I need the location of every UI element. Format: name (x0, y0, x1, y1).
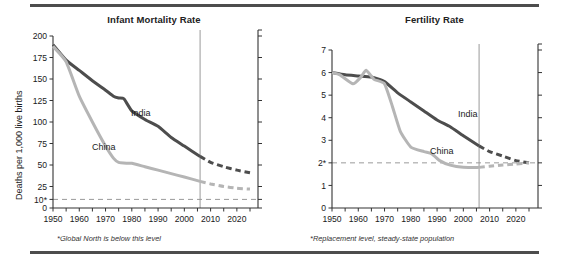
y-tick-label: 0 (321, 203, 326, 213)
y-tick-label: 75 (37, 139, 47, 149)
y-tick-label: 50 (37, 160, 47, 170)
y-tick-label: 1 (321, 181, 326, 191)
x-tick-label: 2000 (175, 214, 194, 224)
chart-svg-infant-mortality: 010*255075100125150175200195019601970198… (0, 0, 290, 266)
y-tick-label: 6 (321, 68, 326, 78)
y-tick-label: 7 (321, 45, 326, 55)
y-tick-label: 125 (33, 96, 48, 106)
y-tick-label: 3 (321, 135, 326, 145)
y-tick-label: 2* (318, 158, 327, 168)
y-tick-label: 25 (37, 182, 47, 192)
x-tick-label: 1970 (96, 214, 115, 224)
figure-container: Infant Mortality Rate Deaths per 1,000 l… (0, 0, 569, 266)
series-line-china-projection (200, 181, 250, 189)
x-tick-label: 2020 (506, 214, 525, 224)
y-tick-label: 10* (34, 195, 48, 205)
footnote-fertility: *Replacement level, steady-state populat… (310, 234, 454, 243)
series-label-india: India (131, 108, 151, 118)
panel-fertility: Fertility Rate 012*345671950196019701980… (290, 0, 569, 266)
x-tick-label: 1990 (149, 214, 168, 224)
series-label-india: India (458, 109, 478, 119)
series-line-india (53, 45, 200, 157)
x-tick-label: 1950 (43, 214, 62, 224)
x-tick-label: 1960 (70, 214, 89, 224)
x-tick-label: 2000 (454, 214, 473, 224)
chart-svg-fertility: 012*345671950196019701980199020002010202… (290, 0, 569, 266)
y-tick-label: 4 (321, 113, 326, 123)
x-tick-label: 1980 (401, 214, 420, 224)
y-tick-label: 5 (321, 90, 326, 100)
series-label-china: China (430, 146, 454, 156)
y-tick-label: 150 (33, 74, 48, 84)
x-tick-label: 1950 (322, 214, 341, 224)
x-tick-label: 2020 (227, 214, 246, 224)
x-tick-label: 1970 (375, 214, 394, 224)
series-line-china-projection (479, 163, 529, 168)
x-tick-label: 2010 (201, 214, 220, 224)
series-line-india-projection (479, 146, 529, 163)
series-line-india-projection (200, 156, 250, 172)
y-tick-label: 175 (33, 53, 48, 63)
x-tick-label: 2010 (480, 214, 499, 224)
x-tick-label: 1990 (428, 214, 447, 224)
x-tick-label: 1980 (122, 214, 141, 224)
y-tick-label: 0 (42, 203, 47, 213)
x-tick-label: 1960 (349, 214, 368, 224)
y-tick-label: 200 (33, 31, 48, 41)
series-label-china: China (92, 142, 116, 152)
panel-infant-mortality: Infant Mortality Rate Deaths per 1,000 l… (0, 0, 290, 266)
y-tick-label: 100 (33, 117, 48, 127)
